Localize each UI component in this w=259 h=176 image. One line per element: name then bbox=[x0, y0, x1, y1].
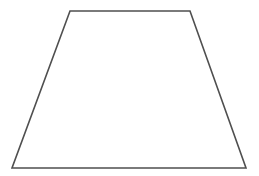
trapezoid-svg bbox=[0, 0, 259, 176]
figure-canvas bbox=[0, 0, 259, 176]
trapezoid-shape bbox=[12, 11, 246, 168]
